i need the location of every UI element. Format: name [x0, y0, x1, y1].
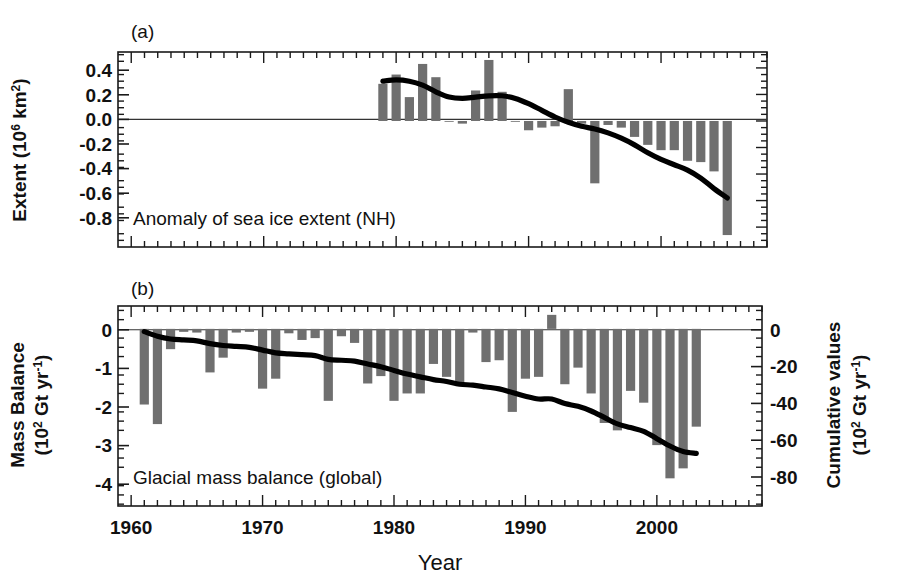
bar: [179, 329, 188, 332]
bar: [665, 329, 674, 478]
bar: [547, 315, 556, 329]
panel-b-caption: Glacial mass balance (global): [133, 467, 382, 488]
bar: [643, 121, 652, 145]
panel-a-ytick-3: -0.2: [79, 134, 112, 155]
bar: [639, 329, 648, 403]
panel-b-y2tick-4: -80: [770, 467, 797, 488]
bar: [537, 121, 546, 128]
x-tick-label: 1960: [110, 517, 152, 538]
panel-b-y2tick-1: -20: [770, 356, 797, 377]
bar: [418, 64, 427, 121]
bar: [153, 329, 162, 424]
bar: [429, 329, 438, 364]
panel-b-y2-axis-title: Cumulative values: [823, 322, 844, 489]
bar: [560, 329, 569, 384]
panel-b-ytick-4: -4: [95, 474, 112, 495]
bar: [245, 329, 254, 332]
bar: [613, 329, 622, 430]
bar: [284, 329, 293, 333]
bar: [484, 60, 493, 121]
bar: [431, 77, 440, 121]
panel-a-caption: Anomaly of sea ice extent (NH): [133, 208, 396, 229]
bar: [652, 329, 661, 445]
bar: [603, 121, 612, 125]
figure-container: (a) Extent (106 km2) 0.4 0.2 0.0 -0.2 -0…: [0, 0, 897, 581]
bar: [337, 329, 346, 336]
bar: [192, 329, 201, 333]
bar: [709, 121, 718, 171]
bar: [696, 121, 705, 162]
bar: [670, 121, 679, 150]
bar: [311, 329, 320, 338]
bar: [534, 329, 543, 377]
bar: [630, 121, 639, 137]
bar: [140, 329, 149, 405]
panel-b-y2-exp2: -1: [849, 361, 863, 372]
bar: [723, 121, 732, 235]
bar: [495, 329, 504, 360]
panel-b-ytick-3: -3: [95, 435, 112, 456]
bar: [324, 329, 333, 401]
bar: [403, 329, 412, 394]
bar: [656, 121, 665, 150]
bar: [458, 121, 467, 124]
panel-a-y-axis-title: Extent (106 km2): [9, 78, 30, 221]
panel-b-y2tick-2: -40: [770, 393, 797, 414]
panel-b-y-axis-title: Mass Balance: [7, 342, 28, 468]
bar: [617, 121, 626, 128]
bar: [564, 89, 573, 121]
bar: [573, 329, 582, 368]
bar: [508, 329, 517, 412]
bar: [679, 329, 688, 468]
x-tick-label: 2000: [636, 517, 678, 538]
x-tick-label: 1980: [373, 517, 415, 538]
bar: [363, 329, 372, 384]
bar: [587, 329, 596, 394]
x-tick-label: 1970: [241, 517, 283, 538]
x-axis-title: Year: [418, 550, 462, 575]
panel-b-y-title-main: Mass Balance: [7, 342, 28, 468]
bar: [297, 329, 306, 340]
panel-a-y-axis-title-text: Extent (106 km2): [9, 78, 30, 221]
bar: [481, 329, 490, 362]
panel-a-y-title-main: Extent: [9, 163, 30, 222]
climate-indicators-figure: (a) Extent (106 km2) 0.4 0.2 0.0 -0.2 -0…: [0, 0, 897, 581]
panel-a-ytick-2: 0.0: [86, 109, 112, 130]
bar: [389, 329, 398, 401]
bar: [455, 329, 464, 386]
bar: [416, 329, 425, 394]
panel-a-letter: (a): [131, 21, 154, 42]
bar: [445, 121, 454, 122]
bar: [378, 84, 387, 121]
bar: [258, 329, 267, 389]
bar: [550, 121, 559, 126]
bar: [600, 329, 609, 423]
bar: [205, 329, 214, 373]
bar: [468, 329, 477, 333]
panel-b-ytick-0: 0: [101, 320, 112, 341]
panel-b-y-exp2: -1: [31, 361, 45, 372]
panel-b-letter: (b): [131, 278, 154, 299]
panel-a-ytick-0: 0.4: [86, 60, 113, 81]
panel-a-ytick-5: -0.6: [79, 183, 112, 204]
bar: [350, 329, 359, 343]
panel-b-ytick-1: -1: [95, 358, 112, 379]
panel-a-ytick-6: -0.8: [79, 208, 112, 229]
panel-b-y2-title-main: Cumulative values: [823, 322, 844, 489]
bar: [511, 121, 520, 122]
bar: [524, 121, 533, 130]
panel-b-y2tick-0: 0: [770, 320, 781, 341]
bar: [442, 329, 451, 377]
bar: [232, 329, 241, 333]
panel-a-ytick-4: -0.4: [79, 158, 112, 179]
panel-b-ytick-2: -2: [95, 397, 112, 418]
bar: [521, 329, 530, 379]
panel-b-y2tick-3: -60: [770, 430, 797, 451]
bar: [405, 97, 414, 121]
bar: [626, 329, 635, 391]
panel-a-ytick-1: 0.2: [86, 85, 112, 106]
bar: [683, 121, 692, 161]
x-tick-label: 1990: [504, 517, 546, 538]
bar: [692, 329, 701, 427]
